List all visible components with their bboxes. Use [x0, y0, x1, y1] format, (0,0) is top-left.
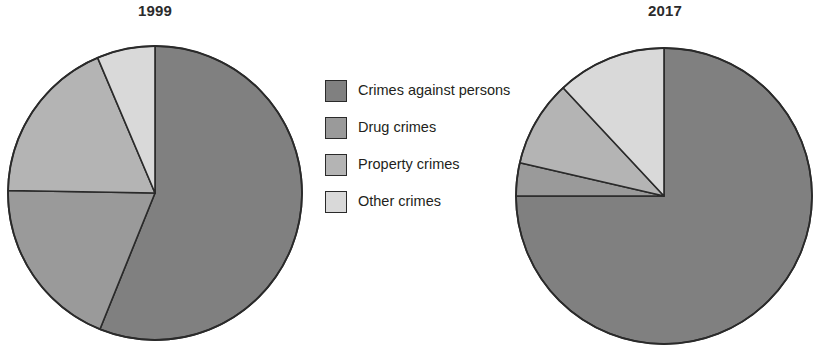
pie-title-2017: 2017	[620, 2, 710, 19]
legend-label-drug-crimes: Drug crimes	[358, 120, 436, 135]
legend-swatch-crimes-against-persons	[325, 80, 347, 102]
pie-1999-svg	[6, 44, 306, 346]
legend-item-crimes-against-persons: Crimes against persons	[325, 72, 515, 109]
legend-swatch-drug-crimes	[325, 117, 347, 139]
legend-swatch-other-crimes	[325, 191, 347, 213]
legend-item-other-crimes: Other crimes	[325, 183, 515, 220]
pie-2017-svg	[514, 46, 816, 348]
legend-item-property-crimes: Property crimes	[325, 146, 515, 183]
legend: Crimes against persons Drug crimes Prope…	[325, 72, 515, 220]
legend-label-other-crimes: Other crimes	[358, 194, 441, 209]
pie-chart-2017	[514, 46, 816, 348]
legend-item-drug-crimes: Drug crimes	[325, 109, 515, 146]
legend-label-property-crimes: Property crimes	[358, 157, 460, 172]
legend-swatch-property-crimes	[325, 154, 347, 176]
pie-title-1999: 1999	[110, 2, 200, 19]
pie-chart-1999	[6, 44, 306, 346]
legend-label-crimes-against-persons: Crimes against persons	[358, 83, 510, 98]
